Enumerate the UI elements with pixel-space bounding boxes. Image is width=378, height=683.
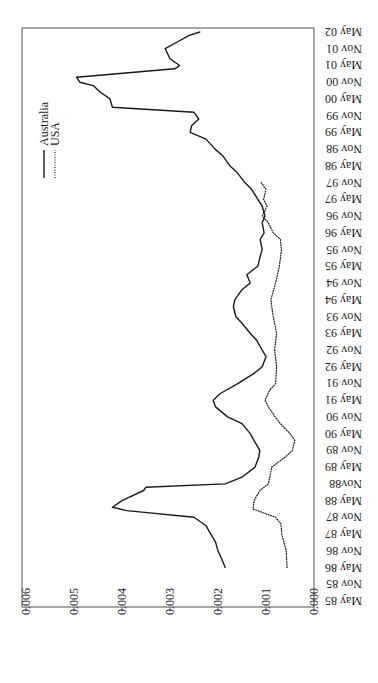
date-tick-label: Nov 90 [326, 410, 362, 424]
value-tick-label: 0.000 [307, 588, 321, 615]
date-axis: May 85Nov 85May 86Nov 86May 87Nov 87May … [325, 25, 362, 608]
date-tick-label: May 98 [325, 159, 362, 173]
value-axis: 0.0000.0010.0020.0030.0040.0050.006 [19, 588, 321, 615]
date-tick-label: May 91 [325, 393, 362, 407]
value-tick-label: 0.004 [115, 588, 129, 615]
date-tick-label: Nov 95 [326, 243, 362, 257]
legend-label-usa: USA [48, 122, 62, 146]
date-tick-label: May 96 [325, 226, 362, 240]
date-tick-label: Nov 97 [326, 176, 362, 190]
date-tick-label: Nov 99 [326, 109, 362, 123]
date-tick-label: May 94 [325, 293, 362, 307]
date-tick-label: Nov 91 [326, 376, 362, 390]
value-tick-label: 0.003 [163, 588, 177, 615]
date-tick-label: May 99 [325, 125, 362, 139]
date-tick-label: May 86 [325, 561, 362, 575]
date-tick-label: Nov 86 [326, 544, 362, 558]
date-tick-label: Nov 96 [326, 209, 362, 223]
value-tick-label: 0.005 [67, 588, 81, 615]
series-line-australia [76, 32, 266, 568]
date-tick-label: May 02 [325, 25, 362, 39]
date-tick-label: Nov 00 [326, 75, 362, 89]
series-line-usa [253, 183, 295, 568]
value-tick-label: 0.002 [211, 588, 225, 615]
date-tick-label: Nov 98 [326, 142, 362, 156]
legend: Australia USA [37, 101, 62, 178]
date-tick-label: Nov 94 [326, 276, 362, 290]
date-tick-label: Nov 87 [326, 510, 362, 524]
date-tick-label: Nov 92 [326, 343, 362, 357]
date-tick-label: Nov 93 [326, 310, 362, 324]
date-tick-label: Nov88 [329, 477, 362, 491]
value-tick-label: 0.001 [259, 588, 273, 615]
value-tick-label: 0.006 [19, 588, 33, 615]
date-tick-label: May 88 [325, 494, 362, 508]
date-tick-label: May 97 [325, 192, 362, 206]
date-tick-label: May 95 [325, 259, 362, 273]
date-tick-label: May 93 [325, 326, 362, 340]
date-tick-label: May 92 [325, 360, 362, 374]
date-tick-label: May 87 [325, 527, 362, 541]
date-tick-label: May 00 [325, 92, 362, 106]
date-tick-label: May 89 [325, 460, 362, 474]
date-tick-label: Nov 85 [326, 577, 362, 591]
rotated-line-chart: 0.0000.0010.0020.0030.0040.0050.006 May … [0, 0, 378, 683]
date-tick-label: Nov 89 [326, 443, 362, 457]
date-tick-label: Nov 01 [326, 42, 362, 56]
date-tick-label: May 85 [325, 594, 362, 608]
series-layer [76, 32, 294, 568]
chart-canvas: 0.0000.0010.0020.0030.0040.0050.006 May … [0, 0, 378, 683]
plot-frame [22, 28, 314, 607]
date-tick-label: May 01 [325, 58, 362, 72]
date-tick-label: May 90 [325, 427, 362, 441]
